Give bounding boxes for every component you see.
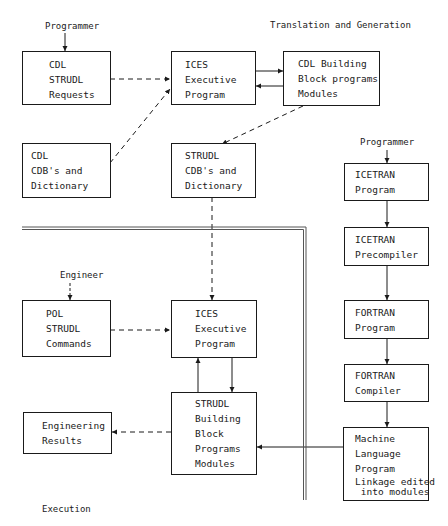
edge-cdl-building-to-strudl-cdbs xyxy=(222,106,303,144)
node-icetran-program: ICETRAN Program xyxy=(344,163,429,201)
node-line: Block programs xyxy=(298,71,378,86)
node-line: Commands xyxy=(46,336,92,351)
node-line: CDB's and xyxy=(185,163,242,178)
node-line: Dictionary xyxy=(185,178,242,193)
actor-programmer-top: Programmer xyxy=(45,21,99,32)
node-line: Linkage edited xyxy=(355,476,435,486)
node-line: Dictionary xyxy=(31,178,88,193)
node-fortran-program: FORTRAN Program xyxy=(344,300,429,339)
node-line: ICETRAN xyxy=(355,232,418,247)
node-line: Program xyxy=(355,320,395,335)
node-line: Modules xyxy=(298,86,378,101)
node-line: Results xyxy=(42,433,105,448)
node-line: Program xyxy=(185,87,236,102)
node-cdl-cdbs-dictionary: CDL CDB's and Dictionary xyxy=(22,143,111,198)
node-strudl-building-block: STRUDL Building Block Programs Modules xyxy=(171,392,257,475)
node-line: STRUDL xyxy=(195,396,241,411)
node-line: Compiler xyxy=(355,383,401,398)
node-line: Program xyxy=(355,182,395,197)
node-ices-executive-top: ICES Executive Program xyxy=(171,51,256,105)
node-fortran-compiler: FORTRAN Compiler xyxy=(344,364,429,402)
node-line: Executive xyxy=(195,321,246,336)
node-line: Building xyxy=(195,411,241,426)
node-line: ICES xyxy=(185,57,236,72)
node-machine-language-program: Machine Language Program Linkage edited … xyxy=(343,427,429,501)
node-line: FORTRAN xyxy=(355,368,401,383)
node-line: CDL xyxy=(31,148,88,163)
node-line: Machine xyxy=(355,431,435,446)
node-cdl-strudl-requests: CDL STRUDL Requests xyxy=(22,51,111,105)
phase-boundary xyxy=(22,227,306,500)
node-line: CDL Building xyxy=(298,56,378,71)
node-line: Requests xyxy=(49,87,95,102)
node-line: POL xyxy=(46,306,92,321)
node-line: ICETRAN xyxy=(355,167,395,182)
node-line: CDL xyxy=(49,57,95,72)
node-line: STRUDL xyxy=(185,148,242,163)
node-strudl-cdbs-dictionary: STRUDL CDB's and Dictionary xyxy=(171,143,256,198)
node-line: Modules xyxy=(195,456,241,471)
node-line: Engineering xyxy=(42,418,105,433)
node-line: Program xyxy=(355,461,435,476)
node-ices-executive-bottom: ICES Executive Program xyxy=(171,300,257,358)
node-line: Program xyxy=(195,336,246,351)
node-line: into modules xyxy=(355,486,435,498)
node-line: FORTRAN xyxy=(355,305,395,320)
node-line: Programs xyxy=(195,441,241,456)
node-line: Block xyxy=(195,426,241,441)
section-label-execution: Execution xyxy=(42,504,91,515)
node-pol-strudl-commands: POL STRUDL Commands xyxy=(22,300,111,357)
node-line: STRUDL xyxy=(46,321,92,336)
node-line: Executive xyxy=(185,72,236,87)
node-line: Precompiler xyxy=(355,247,418,262)
node-line: STRUDL xyxy=(49,72,95,87)
actor-programmer-right: Programmer xyxy=(360,137,414,148)
section-label-translation: Translation and Generation xyxy=(270,20,411,31)
node-line: ICES xyxy=(195,306,246,321)
node-line: Language xyxy=(355,446,435,461)
node-icetran-precompiler: ICETRAN Precompiler xyxy=(344,227,429,266)
edge-cdl-cdbs-to-ices xyxy=(110,89,170,163)
node-line: CDB's and xyxy=(31,163,88,178)
node-cdl-building-block: CDL Building Block programs Modules xyxy=(283,51,380,106)
node-engineering-results: Engineering Results xyxy=(23,412,112,454)
actor-engineer: Engineer xyxy=(60,270,103,281)
